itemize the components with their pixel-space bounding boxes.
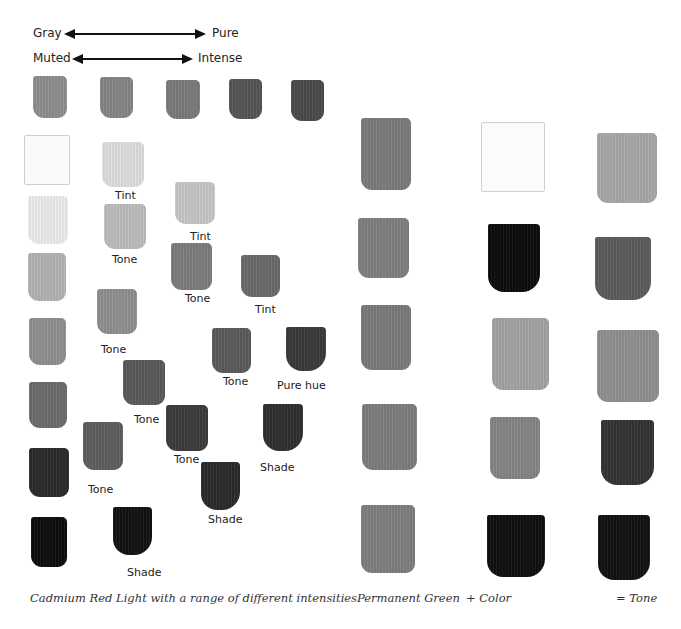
paint-swatch-shade <box>201 462 240 510</box>
paint-swatch-white <box>481 122 545 192</box>
caption-permanent-green: Permanent Green <box>357 591 460 605</box>
swatch-label: Shade <box>208 514 242 525</box>
paint-swatch-pure-hue <box>286 327 326 371</box>
double-arrow-icon <box>80 58 185 60</box>
paint-swatch <box>29 318 66 365</box>
paint-swatch-shade <box>113 507 152 555</box>
paint-swatch <box>100 77 133 118</box>
swatch-label: Pure hue <box>277 380 326 391</box>
swatch-label: Tint <box>255 304 276 315</box>
paint-swatch-tone <box>212 328 251 373</box>
paint-swatch-color <box>487 515 545 577</box>
swatch-label: Shade <box>260 462 294 473</box>
double-arrow-icon <box>72 33 198 35</box>
left-caption: Cadmium Red Light with a range of differ… <box>30 591 361 605</box>
paint-swatch-color <box>488 224 540 292</box>
paint-swatch-tone <box>598 515 650 580</box>
paint-swatch-color <box>492 318 549 390</box>
caption-plus-color: + Color <box>466 591 511 605</box>
paint-swatch-tone <box>597 330 659 402</box>
paint-swatch-green <box>361 118 411 190</box>
paint-swatch-tone <box>83 422 123 470</box>
paint-swatch <box>291 80 324 121</box>
paint-swatch-tone <box>166 405 208 451</box>
paint-swatch-tone <box>123 360 165 405</box>
swatch-label: Tone <box>88 484 113 495</box>
paint-swatch <box>29 448 69 497</box>
paint-swatch-tone <box>97 289 137 334</box>
swatch-label: Tone <box>223 376 248 387</box>
paint-swatch <box>166 80 200 119</box>
swatch-label: Shade <box>127 567 161 578</box>
swatch-label: Tone <box>174 454 199 465</box>
paint-swatch-color <box>490 417 540 479</box>
paint-swatch <box>29 382 67 428</box>
swatch-label: Tone <box>101 344 126 355</box>
paint-swatch-green <box>362 404 417 470</box>
paint-swatch-tint <box>175 182 215 224</box>
paint-swatch-tint <box>102 142 144 187</box>
paint-swatch-tone <box>597 133 657 203</box>
swatch-label: Tone <box>134 414 159 425</box>
caption-equals-tone: = Tone <box>616 591 657 605</box>
paint-swatch-tone <box>601 420 654 485</box>
paint-swatch <box>33 76 67 118</box>
paint-swatch-green <box>361 305 411 370</box>
paint-swatch <box>28 196 68 244</box>
paint-swatch-white <box>24 135 70 185</box>
scale-label-pure: Pure <box>212 27 239 39</box>
paint-swatch-tone <box>104 204 146 249</box>
paint-swatch-tone <box>595 237 651 300</box>
paint-swatch-green <box>361 505 415 573</box>
paint-swatch-tone <box>171 243 212 290</box>
swatch-label: Tint <box>115 190 136 201</box>
paint-swatch <box>31 517 67 567</box>
paint-swatch-green <box>358 218 409 278</box>
paint-swatch <box>229 79 262 119</box>
paint-swatch-shade <box>263 404 303 451</box>
scale-label-intense: Intense <box>198 52 242 64</box>
paint-swatch-tint <box>241 255 280 297</box>
scale-label-muted: Muted <box>33 52 71 64</box>
scale-label-gray: Gray <box>33 27 62 39</box>
swatch-label: Tone <box>185 293 210 304</box>
swatch-label: Tone <box>112 254 137 265</box>
paint-swatch <box>28 253 66 301</box>
swatch-label: Tint <box>190 231 211 242</box>
